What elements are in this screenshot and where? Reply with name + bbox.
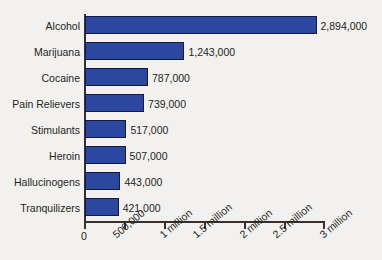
x-axis-tick bbox=[84, 223, 86, 229]
plot-area: Alcohol 2,894,000 Marijuana 1,243,000 Co… bbox=[0, 0, 382, 224]
bar-row: Heroin 507,000 bbox=[0, 146, 382, 166]
bar-row: Pain Relievers 739,000 bbox=[0, 94, 382, 114]
bar-stimulants bbox=[85, 120, 126, 138]
bar-row: Cocaine 787,000 bbox=[0, 68, 382, 88]
bar-marijuana bbox=[85, 42, 184, 60]
bar-row: Alcohol 2,894,000 bbox=[0, 16, 382, 36]
bar-row: Stimulants 517,000 bbox=[0, 120, 382, 140]
bar-alcohol bbox=[85, 16, 317, 34]
bar-value-label: 739,000 bbox=[148, 95, 186, 113]
bar-value-label: 1,243,000 bbox=[188, 43, 235, 61]
bar-row: Marijuana 1,243,000 bbox=[0, 42, 382, 62]
bar-value-label: 787,000 bbox=[152, 69, 190, 87]
bar-hallucinogens bbox=[85, 172, 120, 190]
bar-pain-relievers bbox=[85, 94, 144, 112]
bar-cocaine bbox=[85, 68, 148, 86]
category-label: Marijuana bbox=[34, 43, 80, 61]
bar-value-label: 443,000 bbox=[124, 173, 162, 191]
bar-value-label: 2,894,000 bbox=[321, 17, 368, 35]
category-label: Pain Relievers bbox=[12, 95, 80, 113]
category-label: Heroin bbox=[49, 147, 80, 165]
category-label: Stimulants bbox=[31, 121, 80, 139]
bar-tranquilizers bbox=[85, 198, 119, 216]
bar-chart: Alcohol 2,894,000 Marijuana 1,243,000 Co… bbox=[0, 0, 382, 260]
category-label: Alcohol bbox=[46, 17, 80, 35]
bar-value-label: 507,000 bbox=[130, 147, 168, 165]
bar-row: Hallucinogens 443,000 bbox=[0, 172, 382, 192]
x-axis-tick-label: 0 bbox=[81, 230, 87, 242]
category-label: Cocaine bbox=[41, 69, 80, 87]
bar-heroin bbox=[85, 146, 126, 164]
category-label: Tranquilizers bbox=[20, 199, 80, 217]
category-label: Hallucinogens bbox=[14, 173, 80, 191]
bar-value-label: 517,000 bbox=[130, 121, 168, 139]
